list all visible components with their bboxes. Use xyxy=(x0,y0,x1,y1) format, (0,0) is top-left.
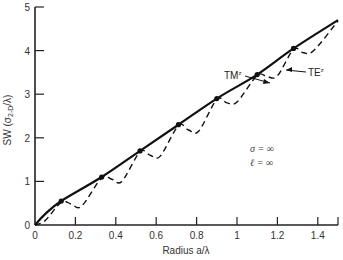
te-label-text: TE xyxy=(308,67,321,78)
x-tick-label: 0.4 xyxy=(109,230,123,241)
x-tick-label: 1.4 xyxy=(311,230,325,241)
x-tick-label: 1 xyxy=(234,230,240,241)
touch-point xyxy=(59,198,64,203)
tm-curve xyxy=(35,20,338,225)
touch-point xyxy=(176,122,181,127)
y-tick-label: 2 xyxy=(24,133,30,144)
chart: 01234500.20.40.60.811.21.4 Radius a/λ SW… xyxy=(0,0,343,260)
x-tick-label: 0 xyxy=(32,230,38,241)
y-tick-label: 0 xyxy=(24,220,30,231)
tm-arrowhead xyxy=(263,79,270,84)
te-curve xyxy=(35,21,338,225)
y-tick-label: 4 xyxy=(24,46,30,57)
x-tick-label: 1.2 xyxy=(270,230,284,241)
y-tick-label: 1 xyxy=(24,176,30,187)
y-axis-title: SW (σ2-D/λ) xyxy=(2,95,14,146)
y-tick-label: 3 xyxy=(24,89,30,100)
y-axis-title-main: SW (σ xyxy=(2,116,13,145)
te-arrowhead xyxy=(286,67,292,72)
y-axis-title-sub: 2-D xyxy=(7,106,14,117)
tm-label-text: TM xyxy=(224,70,238,81)
x-axis-title: Radius a/λ xyxy=(162,245,209,256)
touch-point xyxy=(214,96,219,101)
tm-label: TMz xyxy=(224,70,241,81)
x-tick-label: 0.8 xyxy=(190,230,204,241)
y-axis-title-end: /λ) xyxy=(2,95,13,106)
touch-point xyxy=(99,174,104,179)
plot-area xyxy=(35,20,338,225)
touch-point xyxy=(291,46,296,51)
te-label-sup: z xyxy=(321,67,324,73)
tm-label-sup: z xyxy=(238,70,241,76)
te-label: TEz xyxy=(308,67,324,78)
ell-annotation: ℓ = ∞ xyxy=(250,157,273,168)
touch-point xyxy=(137,148,142,153)
touch-point xyxy=(255,72,260,77)
x-tick-label: 0.6 xyxy=(149,230,163,241)
x-tick-label: 0.2 xyxy=(68,230,82,241)
sigma-annotation: σ = ∞ xyxy=(250,143,274,154)
y-tick-label: 5 xyxy=(24,2,30,13)
